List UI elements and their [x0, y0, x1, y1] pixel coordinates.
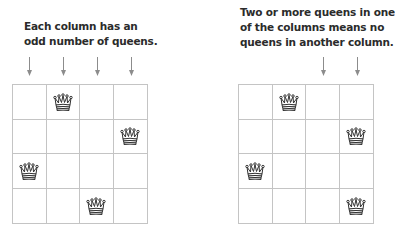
board-cell: [340, 85, 374, 120]
arrow-down-icon: [128, 57, 135, 77]
arrow-down-icon: [60, 57, 67, 77]
arrow-down-icon: [26, 57, 33, 77]
queen-icon: [119, 125, 141, 147]
caption-line: queens in another column.: [240, 35, 395, 50]
arrow-down-icon: [354, 57, 361, 77]
board-cell: [80, 120, 114, 155]
right-board: [238, 84, 374, 224]
left-caption: Each column has an odd number of queens.: [24, 19, 157, 49]
queen-icon: [345, 195, 367, 217]
queen-icon: [278, 91, 300, 113]
queen-icon: [18, 160, 40, 182]
board-cell: [47, 154, 81, 189]
board-cell: [340, 120, 374, 155]
board-cell: [80, 189, 114, 224]
left-board: [12, 84, 148, 224]
board-cell: [47, 189, 81, 224]
board-cell: [273, 189, 307, 224]
arrow-down-icon: [94, 57, 101, 77]
board-cell: [306, 85, 340, 120]
board-cell: [306, 120, 340, 155]
board-cell: [47, 85, 81, 120]
board-cell: [114, 154, 148, 189]
board-cell: [273, 120, 307, 155]
board-cell: [306, 154, 340, 189]
queen-icon: [85, 195, 107, 217]
queen-icon: [345, 125, 367, 147]
board-cell: [47, 120, 81, 155]
board-cell: [239, 120, 273, 155]
board-cell: [340, 154, 374, 189]
arrow-down-icon: [320, 57, 327, 77]
board-cell: [340, 189, 374, 224]
board-cell: [13, 189, 47, 224]
board-cell: [114, 120, 148, 155]
board-cell: [13, 154, 47, 189]
board-cell: [80, 85, 114, 120]
caption-line: of the columns means no: [240, 20, 395, 35]
caption-line: Each column has an: [24, 19, 157, 34]
board-cell: [114, 85, 148, 120]
board-cell: [239, 85, 273, 120]
board-cell: [239, 189, 273, 224]
caption-line: Two or more queens in one: [240, 5, 395, 20]
board-cell: [273, 154, 307, 189]
caption-line: odd number of queens.: [24, 34, 157, 49]
board-cell: [306, 189, 340, 224]
board-cell: [80, 154, 114, 189]
board-cell: [273, 85, 307, 120]
board-cell: [13, 120, 47, 155]
board-cell: [13, 85, 47, 120]
right-caption: Two or more queens in one of the columns…: [240, 5, 395, 50]
board-cell: [114, 189, 148, 224]
queen-icon: [244, 160, 266, 182]
queen-icon: [52, 91, 74, 113]
board-cell: [239, 154, 273, 189]
